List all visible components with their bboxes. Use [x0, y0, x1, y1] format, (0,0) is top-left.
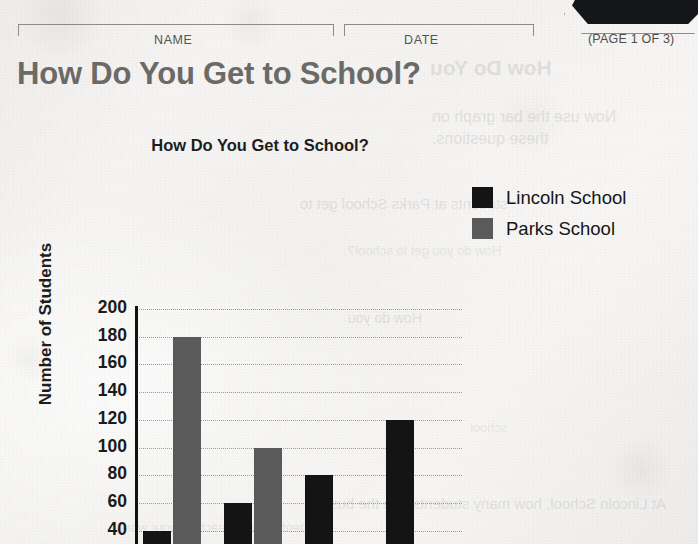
gridline: [137, 309, 462, 310]
legend-item: Lincoln School: [472, 182, 626, 213]
y-axis-tick-label: 160: [81, 352, 127, 373]
date-label: DATE: [404, 33, 439, 47]
bar-walk-lincoln-school: [143, 531, 171, 544]
page-indicator: (PAGE 1 OF 3): [588, 32, 674, 46]
page-title: How Do You Get to School?: [17, 56, 421, 92]
bar-bus-lincoln-school: [386, 420, 414, 544]
y-axis-tick-label: 140: [81, 380, 127, 401]
y-axis-tick-label: 100: [81, 436, 127, 457]
y-axis-tick-label: 120: [81, 408, 127, 429]
name-label: NAME: [154, 33, 193, 47]
y-axis-tick-label: 60: [81, 491, 127, 512]
legend-label: Lincoln School: [506, 187, 626, 209]
hexagon-badge-icon: [572, 0, 698, 24]
bleed-through-heading: How Do You: [430, 56, 552, 80]
legend-swatch-icon: [472, 187, 493, 208]
legend-label: Parks School: [506, 218, 615, 240]
legend-swatch-icon: [472, 218, 493, 239]
y-axis-tick-label: 180: [81, 325, 127, 346]
legend-item: Parks School: [472, 213, 626, 244]
bar-bicycle-lincoln-school: [224, 503, 252, 544]
bar-walk-parks-school: [173, 337, 201, 544]
bar-bicycle-parks-school: [254, 448, 282, 544]
date-field-rule[interactable]: [344, 24, 534, 36]
bar-car-lincoln-school: [305, 475, 333, 544]
y-axis-tick-label: 40: [81, 519, 127, 540]
y-axis-line: [135, 306, 138, 544]
chart-legend: Lincoln SchoolParks School: [472, 182, 626, 244]
worksheet-page: How Do You Now use the bar graph on thes…: [0, 0, 698, 544]
y-axis-tick-label: 200: [81, 297, 127, 318]
y-axis-tick-label: 80: [81, 463, 127, 484]
bleed-through-line-1: Now use the bar graph on: [432, 108, 616, 126]
y-axis-title: Number of Students: [36, 214, 56, 434]
chart-title: How Do You Get to School?: [0, 136, 520, 155]
plot-area: [137, 309, 462, 544]
